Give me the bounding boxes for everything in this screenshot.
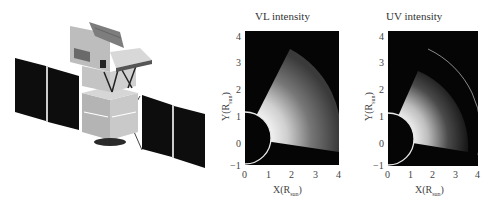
satellite-icon — [0, 0, 220, 206]
x-tick: 0 — [242, 169, 247, 180]
y-tick: 3 — [379, 57, 384, 68]
y-tick: 2 — [236, 84, 241, 95]
x-tick: 3 — [313, 169, 318, 180]
uv-intensity-panel: UV intensity 4 3 2 1 0 −1 Y(Rsun) 0 1 2 … — [360, 0, 494, 206]
y-tick: 4 — [379, 31, 384, 42]
y-axis-label: Y(Rsun) — [363, 92, 376, 121]
vl-intensity-image — [245, 31, 339, 165]
y-tick: 1 — [379, 111, 384, 122]
y-tick: 0 — [236, 138, 241, 149]
y-tick: 3 — [236, 57, 241, 68]
right-solar-array — [128, 95, 205, 168]
x-axis-label: X(Rsun) — [273, 184, 302, 197]
x-tick: 1 — [266, 169, 271, 180]
x-tick: 4 — [336, 169, 341, 180]
x-tick: 0 — [385, 169, 390, 180]
x-axis-label: X(Rsun) — [415, 184, 444, 197]
y-tick: 4 — [236, 31, 241, 42]
x-tick: 3 — [453, 169, 458, 180]
satellite-illustration — [0, 0, 220, 206]
y-axis-label: Y(Rsun) — [220, 92, 233, 121]
y-tick: −1 — [373, 160, 384, 171]
left-solar-array — [15, 58, 79, 130]
y-tick: 1 — [236, 111, 241, 122]
x-tick: 4 — [475, 169, 480, 180]
uv-intensity-image — [388, 31, 478, 166]
panel-title: UV intensity — [386, 10, 442, 22]
y-tick: 0 — [379, 138, 384, 149]
x-tick: 2 — [289, 169, 294, 180]
x-tick: 1 — [408, 169, 413, 180]
y-tick: −1 — [230, 160, 241, 171]
x-tick: 2 — [430, 169, 435, 180]
y-tick: 2 — [379, 84, 384, 95]
vl-intensity-panel: VL intensity 4 3 2 1 0 −1 Y(Rsun) 0 1 2 … — [220, 0, 355, 206]
satellite-body — [70, 22, 152, 146]
panel-title: VL intensity — [255, 10, 310, 22]
